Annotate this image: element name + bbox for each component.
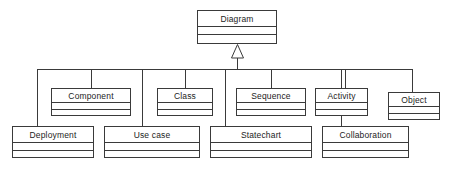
uml-attributes-compartment [158,103,212,110]
connector-drop-line [345,69,346,88]
uml-class-deployment[interactable]: Deployment [12,126,94,158]
uml-class-statechart[interactable]: Statechart [210,126,312,158]
uml-diagram-canvas: Diagram ComponentClassSequenceActivityOb… [0,0,450,173]
uml-attributes-compartment [13,143,93,151]
uml-operations-compartment [158,110,212,115]
uml-class-sequence[interactable]: Sequence [236,88,306,116]
uml-operations-compartment [105,151,199,157]
uml-class-diagram-root[interactable]: Diagram [197,10,277,44]
uml-class-class[interactable]: Class [157,88,213,116]
uml-class-name-root: Diagram [198,11,276,27]
uml-class-activity[interactable]: Activity [315,88,368,116]
uml-attributes-compartment [389,107,439,114]
uml-operations-compartment [237,110,305,115]
uml-operations-compartment [389,114,439,119]
uml-class-name: Statechart [211,127,311,143]
uml-class-name: Deployment [13,127,93,143]
connector-drop-line [91,69,92,88]
uml-attributes-compartment [211,143,311,151]
uml-operations-compartment [13,151,93,157]
generalization-arrow-icon [230,44,245,69]
uml-attributes-compartment [105,143,199,151]
uml-class-name: Component [52,89,130,103]
connector-drop-line [412,69,413,92]
connector-drop-line [185,69,186,88]
connector-drop-line [225,69,226,126]
uml-operations-compartment [211,151,311,157]
connector-drop-line [142,69,143,126]
uml-class-name: Object [389,93,439,107]
uml-class-name: Collaboration [323,127,408,143]
uml-operations-compartment-root [198,35,276,43]
uml-class-name: Use case [105,127,199,143]
uml-operations-compartment [52,110,130,115]
uml-class-object[interactable]: Object [388,92,440,120]
uml-class-use-case[interactable]: Use case [104,126,200,158]
uml-operations-compartment [316,110,367,115]
uml-class-name: Activity [316,89,367,103]
uml-attributes-compartment [323,143,408,151]
uml-attributes-compartment-root [198,27,276,35]
connector-drop-line [271,69,272,88]
uml-attributes-compartment [316,103,367,110]
uml-class-collaboration[interactable]: Collaboration [322,126,409,158]
uml-class-name: Class [158,89,212,103]
uml-class-component[interactable]: Component [51,88,131,116]
uml-class-name: Sequence [237,89,305,103]
uml-attributes-compartment [52,103,130,110]
uml-attributes-compartment [237,103,305,110]
connector-drop-line [37,69,38,126]
uml-operations-compartment [323,151,408,157]
